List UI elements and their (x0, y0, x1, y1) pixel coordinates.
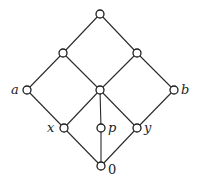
label-y: y (143, 120, 152, 135)
node-b (170, 86, 178, 94)
node-top (96, 10, 104, 18)
edge-center-p (100, 90, 101, 128)
label-a: a (11, 82, 19, 97)
edge-center-x (64, 90, 100, 128)
edge-x-zero (64, 128, 101, 166)
edge-a-x (27, 90, 64, 128)
node-left-upper (59, 49, 67, 57)
edge-r2-b (137, 53, 174, 90)
label-p: p (108, 120, 117, 135)
edge-b-y (137, 90, 174, 128)
edge-y-zero (101, 128, 137, 166)
node-right-upper (133, 49, 141, 57)
node-y (133, 124, 141, 132)
edge-center-y (100, 90, 137, 128)
node-p (97, 124, 105, 132)
edge-l2-center (63, 53, 100, 90)
label-x: x (47, 120, 55, 135)
node-a (23, 86, 31, 94)
edge-top-l2 (63, 14, 100, 53)
edge-top-r2 (100, 14, 137, 53)
edge-l2-a (27, 53, 63, 90)
label-zero: 0 (108, 162, 116, 177)
node-zero (97, 162, 105, 170)
hasse-diagram: a b x p y 0 (0, 0, 198, 186)
node-center (96, 86, 104, 94)
label-b: b (181, 82, 189, 97)
edge-r2-center (100, 53, 137, 90)
node-x (60, 124, 68, 132)
